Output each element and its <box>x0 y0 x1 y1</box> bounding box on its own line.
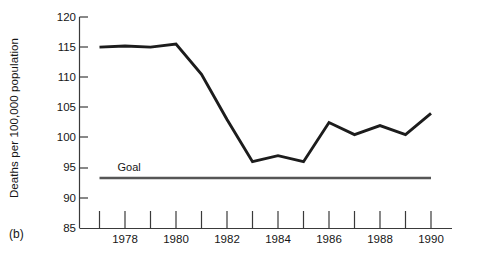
x-tick-marks <box>100 211 432 229</box>
figure-panel: Deaths per 100,000 population (b) 120 11… <box>0 0 478 262</box>
chart-canvas <box>0 0 478 262</box>
death-rate-line <box>100 44 432 162</box>
y-tick-marks <box>80 17 89 198</box>
